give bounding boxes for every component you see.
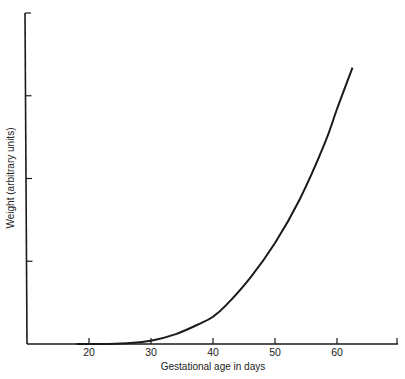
weight-curve — [77, 68, 353, 344]
x-tick-label: 60 — [331, 346, 343, 358]
x-tick-label: 20 — [83, 346, 95, 358]
x-ticks: 2030405060 — [83, 338, 343, 358]
x-tick-label: 50 — [269, 346, 281, 358]
chart-canvas: 2030405060 Gestational age in days Weigh… — [0, 0, 405, 379]
x-axis-title: Gestational age in days — [161, 361, 266, 372]
axes: 2030405060 — [25, 13, 398, 358]
y-axis-title: Weight (arbitrary units) — [5, 128, 16, 229]
x-tick-label: 30 — [145, 346, 157, 358]
x-tick-label: 40 — [207, 346, 219, 358]
